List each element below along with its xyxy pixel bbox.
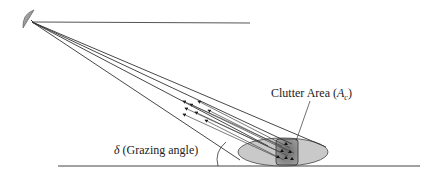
- horizon-line: [32, 22, 250, 23]
- clutter-area-label: Clutter Area (Ac): [271, 86, 352, 102]
- clutter-leader-line: [296, 101, 310, 141]
- radar-dish-icon: [23, 10, 34, 28]
- grazing-angle-label: δ (Grazing angle): [114, 143, 198, 158]
- diagram-canvas: [0, 0, 445, 174]
